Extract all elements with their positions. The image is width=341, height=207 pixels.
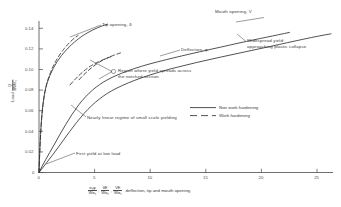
y-tick-label-004: 0.04 [25, 129, 33, 134]
y-tick-label-014: 0.14 [25, 26, 33, 31]
legend-item-non-work-hardening: Non work hardening [190, 103, 258, 111]
leader-mouth-opening [236, 18, 264, 23]
legend-label-non-work-hardening: Non work hardening [219, 105, 258, 110]
leader-region-yield-a [90, 60, 112, 72]
x-axis-fraction-3-denominator: Wσᵧ [113, 191, 122, 195]
curve-mouth-opening-dashed [79, 53, 121, 80]
x-axis-fraction-1-denominator: Wσᵧ [88, 191, 97, 195]
x-axis-fraction-1: σᵧφ Wσᵧ [88, 186, 97, 195]
annotation-first-yield: First yield at low load [76, 151, 120, 157]
annotation-widespread-yield: Widespread yield: approaching plastic co… [247, 38, 306, 49]
x-axis-label-text: deflection, tip and mouth opening [126, 188, 191, 193]
annotation-tip-opening: Tip opening, δ [102, 22, 132, 28]
curve-tip-opening-dashed [39, 36, 78, 173]
leader-region-yield-b [99, 72, 112, 80]
x-tick-label-15: 15 [203, 175, 208, 180]
y-axis-label: Load Q BWσᵧ [8, 86, 48, 96]
legend-label-work-hardening: Work hardening [219, 113, 250, 118]
leader-nearly-linear [71, 105, 86, 117]
annotation-region-yield-spreads-line1: Region where yield spreads across [118, 68, 191, 74]
x-axis-label: σᵧφ Wσᵧ , δE Wσᵧ , VE Wσᵧ deflection, ti… [88, 186, 190, 195]
legend-key-dashed-icon [190, 113, 216, 118]
y-tick-label-010: 0.10 [25, 67, 33, 72]
y-axis-fraction-denominator: BWσᵧ [14, 80, 18, 91]
y-axis-fraction: Q BWσᵧ [8, 80, 17, 91]
region-yield-marker [111, 69, 115, 73]
legend-item-work-hardening: Work hardening [190, 111, 258, 119]
x-ticks [39, 169, 317, 173]
annotation-mouth-opening: Mouth opening, V [215, 9, 252, 15]
x-tick-label-10: 10 [147, 175, 152, 180]
x-tick-label-0: 0 [37, 175, 39, 180]
annotation-widespread-yield-line2: approaching plastic collapse [247, 44, 306, 50]
x-axis-fraction-3: VE Wσᵧ [113, 186, 122, 195]
y-tick-label-002: 0.02 [25, 149, 33, 154]
x-axis-fraction-2-denominator: Wσᵧ [101, 191, 110, 195]
y-axis-label-text: Load [10, 92, 15, 102]
x-tick-label-5: 5 [93, 175, 95, 180]
y-tick-label-012: 0.12 [25, 46, 33, 51]
x-tick-label-20: 20 [259, 175, 264, 180]
annotation-leaders [46, 18, 264, 165]
x-axis-separator-1: , [98, 188, 99, 193]
plot-canvas [0, 0, 341, 207]
x-tick-label-25: 25 [314, 175, 319, 180]
y-tick-label-0: 0 [32, 170, 34, 175]
x-axis-fraction-2: δE Wσᵧ [101, 186, 110, 195]
leader-widespread-yield [237, 34, 246, 42]
chart-figure: 0 0.02 0.04 0.06 0.08 0.10 0.12 0.14 0 5… [0, 0, 341, 207]
legend-key-solid-icon [190, 105, 216, 110]
annotation-region-yield-spreads: Region where yield spreads across the no… [118, 68, 191, 79]
annotation-nearly-linear: Nearly linear regime of small scale yiel… [87, 115, 177, 121]
chart-legend: Non work hardening Work hardening [190, 103, 258, 119]
y-tick-label-006: 0.06 [25, 108, 33, 113]
leader-tip-opening [70, 25, 101, 37]
annotation-region-yield-spreads-line2: the notched section [118, 74, 191, 80]
annotation-deflection: Deflection, φ [181, 47, 208, 53]
x-axis-separator-2: , [111, 188, 112, 193]
leader-deflection [160, 50, 180, 56]
